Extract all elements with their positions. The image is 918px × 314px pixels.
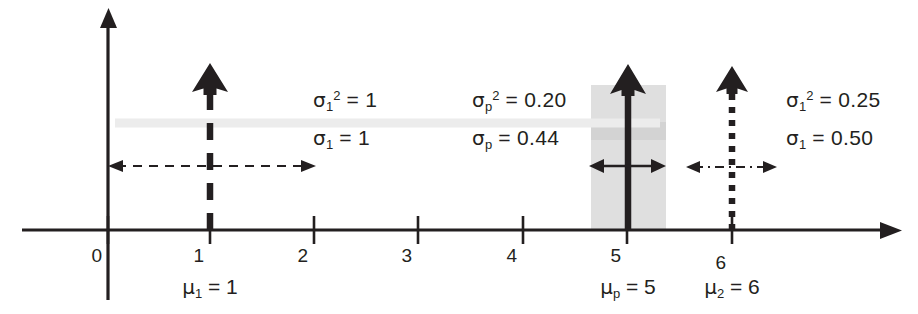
- mean2-arrowhead: [716, 66, 748, 94]
- mu-glyph: μ: [182, 275, 195, 299]
- sigmap-sd-label: σp = 0.44: [472, 126, 559, 152]
- mean2-label: μ2 = 6: [672, 275, 792, 301]
- mean1-label: μ1 = 1: [150, 275, 270, 301]
- sigma-glyph: σ: [313, 126, 326, 150]
- sigma2-variance-label: σ12 = 0.25: [786, 88, 880, 114]
- tick-label-4: 4: [487, 245, 517, 267]
- meanp-arrowhead: [610, 64, 646, 96]
- sigma-glyph: σ: [786, 126, 799, 150]
- tick-label-0: 0: [72, 245, 102, 267]
- sigma2-variance-value: = 0.25: [813, 88, 880, 111]
- tick-label-3: 3: [382, 245, 412, 267]
- sigma1-error-bar-left-arrowhead: [108, 160, 123, 172]
- x-axis-arrowhead: [880, 222, 902, 239]
- sigma1-error-bar-right-arrowhead: [301, 160, 316, 172]
- y-axis-arrowhead: [100, 8, 117, 28]
- tick-label-5: 5: [591, 245, 621, 267]
- sigmap-variance-value: = 0.20: [499, 88, 566, 111]
- meanp-value: = 5: [620, 275, 656, 298]
- plot-canvas: [0, 0, 918, 314]
- sigma1-sd-value: = 1: [333, 126, 370, 149]
- sigma1-sd-label: σ1 = 1: [313, 126, 370, 152]
- sigma2-error-bar-left-arrowhead: [686, 161, 700, 173]
- mean2-value: = 6: [724, 275, 760, 298]
- mean1-arrowhead: [192, 63, 228, 95]
- sigma1-variance-label: σ12 = 1: [313, 88, 377, 114]
- meanp-label: μp = 5: [568, 275, 688, 301]
- mu-glyph: μ: [600, 275, 613, 299]
- sigma-glyph: σ: [472, 126, 485, 150]
- sigma-glyph: σ: [313, 88, 326, 112]
- tick-label-1: 1: [174, 245, 204, 267]
- mean1-value: = 1: [202, 275, 238, 298]
- sigmap-variance-label: σp2 = 0.20: [472, 88, 566, 114]
- sigma2-sd-value: = 0.50: [806, 126, 873, 149]
- sigmap-sd-value: = 0.44: [492, 126, 559, 149]
- sigma2-sd-label: σ1 = 0.50: [786, 126, 873, 152]
- sigma-glyph: σ: [786, 88, 799, 112]
- tick-label-6: 6: [696, 252, 726, 274]
- statistics-number-line-figure: 0 1 2 3 4 5 6 σ12 = 1 σ1 = 1 σp2 = 0.20 …: [0, 0, 918, 314]
- sigma2-error-bar-right-arrowhead: [763, 161, 777, 173]
- tick-label-2: 2: [278, 245, 308, 267]
- sigma1-variance-value: = 1: [340, 88, 377, 111]
- mu-glyph: μ: [704, 275, 717, 299]
- sigma-glyph: σ: [472, 88, 485, 112]
